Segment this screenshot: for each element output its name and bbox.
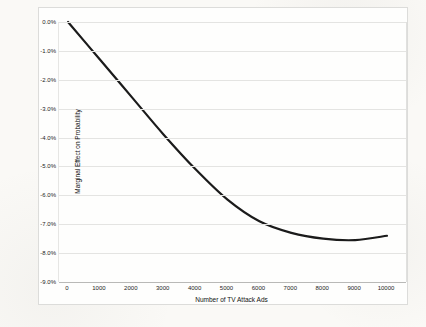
y-tick-label: -8.0% <box>16 250 56 256</box>
x-tick-label: 2000 <box>124 285 137 291</box>
x-tick-label: 9000 <box>347 285 360 291</box>
y-tick-label: -5.0% <box>16 163 56 169</box>
x-axis-title: Number of TV Attack Ads <box>58 296 405 303</box>
gridline <box>59 224 406 225</box>
x-tick-label: 5000 <box>220 285 233 291</box>
x-tick-label: 4000 <box>188 285 201 291</box>
y-tick-label: -1.0% <box>16 48 56 54</box>
effect-curve <box>68 22 387 240</box>
curve-svg <box>59 22 406 282</box>
gridline <box>59 253 406 254</box>
gridline <box>59 166 406 167</box>
gridline <box>59 80 406 81</box>
screenshot-root: { "chart": { "y_axis_title": "Marginal E… <box>0 0 426 327</box>
gridline <box>59 195 406 196</box>
gridline <box>59 282 406 283</box>
gridline <box>59 22 406 23</box>
y-tick-label: -3.0% <box>16 106 56 112</box>
gridline <box>59 138 406 139</box>
x-tick-label: 3000 <box>156 285 169 291</box>
y-tick-label: 0.0% <box>16 19 56 25</box>
gridline <box>59 109 406 110</box>
x-tick-label: 8000 <box>316 285 329 291</box>
x-tick-label: 7000 <box>284 285 297 291</box>
marginal-effect-chart: Marginal Effect on Probability Number of… <box>38 7 408 305</box>
y-tick-label: -7.0% <box>16 221 56 227</box>
x-tick-label: 10000 <box>378 285 395 291</box>
y-tick-label: -2.0% <box>16 77 56 83</box>
x-tick-label: 1000 <box>92 285 105 291</box>
x-tick-label: 0 <box>65 285 68 291</box>
y-tick-label: -4.0% <box>16 135 56 141</box>
x-tick-label: 6000 <box>252 285 265 291</box>
y-tick-label: -9.0% <box>16 279 56 285</box>
y-axis-title: Marginal Effect on Probability <box>74 92 81 212</box>
y-tick-label: -6.0% <box>16 192 56 198</box>
gridline <box>59 51 406 52</box>
plot-area <box>58 22 407 282</box>
